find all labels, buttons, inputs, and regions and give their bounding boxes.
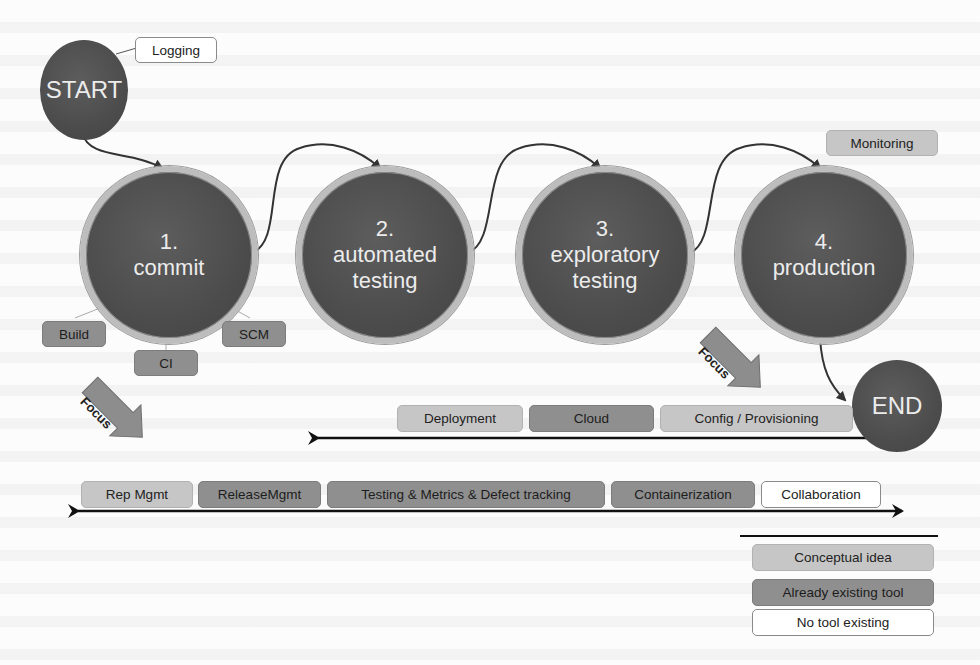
tag-containerization: Containerization bbox=[611, 481, 755, 508]
tag-ci: CI bbox=[134, 350, 198, 376]
stage-number: 3. bbox=[596, 216, 614, 242]
tag-cloud: Cloud bbox=[529, 405, 654, 432]
tag-scm: SCM bbox=[222, 321, 286, 347]
stage-commit: 1. commit bbox=[80, 166, 258, 344]
stage-name: exploratory bbox=[551, 242, 660, 268]
tag-config-provisioning: Config / Provisioning bbox=[660, 405, 853, 432]
tag-rep-mgmt: Rep Mgmt bbox=[81, 481, 193, 508]
stage-automated-testing: 2. automated testing bbox=[296, 166, 474, 344]
devops-pipeline-diagram: Focus Focus START END 1. commit 2. autom… bbox=[0, 0, 980, 665]
stage-name-line2: testing bbox=[353, 268, 418, 294]
tag-logging: Logging bbox=[135, 37, 217, 63]
tag-release-mgmt: ReleaseMgmt bbox=[198, 481, 321, 508]
stage-production: 4. production bbox=[735, 166, 913, 344]
tag-monitoring: Monitoring bbox=[826, 130, 938, 156]
tag-testing-metrics-defect: Testing & Metrics & Defect tracking bbox=[327, 481, 605, 508]
stage-name: commit bbox=[134, 255, 205, 281]
stage-name: automated bbox=[333, 242, 437, 268]
tag-build: Build bbox=[42, 321, 106, 347]
tag-deployment: Deployment bbox=[397, 405, 523, 432]
legend-already-existing-tool: Already existing tool bbox=[752, 579, 934, 606]
end-label: END bbox=[872, 392, 923, 420]
stage-name: production bbox=[773, 255, 876, 281]
start-node: START bbox=[40, 40, 128, 140]
legend-no-tool-existing: No tool existing bbox=[752, 609, 934, 636]
start-label: START bbox=[46, 76, 122, 104]
legend-conceptual-idea: Conceptual idea bbox=[752, 544, 934, 571]
arrow-production-to-end bbox=[820, 338, 845, 400]
end-node: END bbox=[852, 360, 942, 452]
stage-exploratory-testing: 3. exploratory testing bbox=[516, 166, 694, 344]
stage-number: 2. bbox=[376, 216, 394, 242]
stage-number: 4. bbox=[815, 229, 833, 255]
stage-name-line2: testing bbox=[573, 268, 638, 294]
tag-collaboration: Collaboration bbox=[761, 481, 881, 508]
stage-number: 1. bbox=[160, 229, 178, 255]
